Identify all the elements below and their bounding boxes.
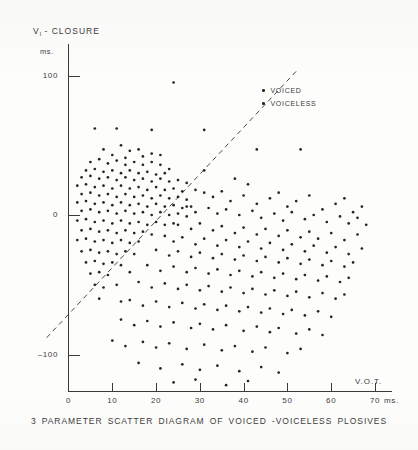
y-tick-label--100: –100 (24, 350, 58, 359)
y-tick-label-0: 0 (24, 210, 58, 219)
legend-item-voiceless: VOICELESS (262, 97, 316, 110)
y-tick-label-100: 100 (24, 71, 58, 80)
x-axis-ticks (113, 383, 376, 392)
series-voiceless-points (111, 148, 368, 387)
x-axis-title: V.O.T. (355, 377, 382, 386)
y-axis-title: Vl - CLOSURE (33, 26, 100, 37)
dot-icon (262, 102, 265, 105)
x-tick-label-20: 20 (143, 396, 169, 405)
x-tick-label-0: 0 (56, 396, 82, 405)
x-axis-unit-label: ms. (384, 396, 399, 405)
x-tick-label-50: 50 (274, 396, 300, 405)
figure-caption: 3 PARAMETER SCATTER DIAGRAM OF VOICED -V… (0, 416, 418, 426)
series-voiced-points (76, 81, 258, 303)
y-axis-title-rest: - CLOSURE (41, 26, 100, 36)
legend-item-voiced: VOICED (262, 84, 316, 97)
x-tick-label-30: 30 (187, 396, 213, 405)
x-tick-label-10: 10 (99, 396, 125, 405)
x-tick-label-40: 40 (231, 396, 257, 405)
y-axis-title-main: V (33, 26, 40, 36)
x-tick-label-60: 60 (318, 396, 344, 405)
dot-icon (262, 89, 265, 92)
y-axis-unit-label: ms. (40, 47, 54, 56)
dashed-separatrix-line (47, 71, 297, 337)
legend-label-voiced: VOICED (271, 87, 302, 94)
legend: VOICED VOICELESS (262, 84, 316, 110)
legend-label-voiceless: VOICELESS (271, 100, 317, 107)
y-axis-ticks (69, 76, 81, 355)
scatter-figure: Vl - CLOSURE ms. 1000–100 01020304050607… (0, 0, 418, 450)
